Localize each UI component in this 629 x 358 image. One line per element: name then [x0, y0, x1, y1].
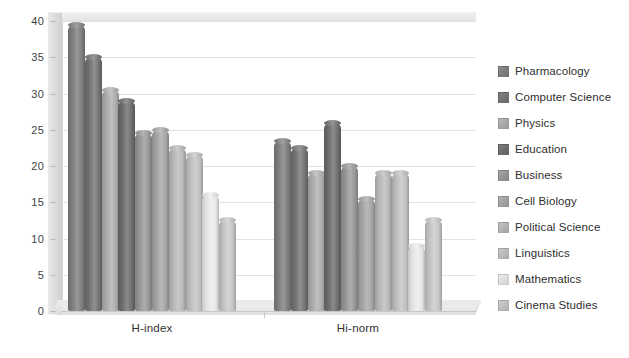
legend-swatch-icon [498, 300, 509, 311]
legend-label: Pharmacology [515, 65, 590, 77]
bar-physics-hi-norm [308, 173, 325, 311]
y-axis-tick [50, 166, 56, 167]
bar-political-science-h-index [169, 148, 186, 311]
legend-label: Physics [515, 117, 555, 129]
legend-label: Education [515, 143, 567, 155]
bar-cell-biology-h-index [152, 130, 169, 311]
legend-label: Mathematics [515, 273, 581, 285]
legend-swatch-icon [498, 170, 509, 181]
bar-education-h-index [118, 101, 135, 311]
legend-label: Political Science [515, 221, 600, 233]
bar-mathematics-h-index [202, 195, 219, 311]
y-axis-tick-label: 20 [16, 160, 44, 172]
y-axis-tick [50, 21, 56, 22]
bar-cap [375, 170, 392, 176]
bar-linguistics-h-index [186, 155, 203, 311]
bar-cap [425, 217, 442, 223]
y-axis-tick-label: 25 [16, 124, 44, 136]
y-axis-tick [50, 202, 56, 203]
bar-cell-biology-hi-norm [358, 199, 375, 311]
legend-item-pharmacology[interactable]: Pharmacology [498, 58, 626, 84]
y-axis-tick [50, 275, 56, 276]
bar-business-hi-norm [341, 166, 358, 311]
plot-area: H-indexHi-norm [0, 0, 490, 358]
bar-cap [291, 145, 308, 151]
legend-label: Business [515, 169, 562, 181]
legend-item-cinema-studies[interactable]: Cinema Studies [498, 292, 626, 318]
legend-item-mathematics[interactable]: Mathematics [498, 266, 626, 292]
gridline [62, 311, 476, 312]
bar-cinema-studies-h-index [219, 220, 236, 311]
bar-cap [324, 120, 341, 126]
legend-item-linguistics[interactable]: Linguistics [498, 240, 626, 266]
legend-item-business[interactable]: Business [498, 162, 626, 188]
y-axis-labels: 0510152025303540 [8, 0, 44, 358]
y-axis-tick-label: 40 [16, 15, 44, 27]
bar-cap [102, 87, 119, 93]
bar-computer-science-h-index [85, 57, 102, 311]
legend-swatch-icon [498, 118, 509, 129]
legend-swatch-icon [498, 144, 509, 155]
bar-cap [152, 127, 169, 133]
bar-cap [274, 138, 291, 144]
bar-chart: H-indexHi-norm 0510152025303540 Pharmaco… [0, 0, 629, 358]
y-axis-tick-label: 15 [16, 196, 44, 208]
x-axis-label-hi-norm: Hi-norm [298, 322, 418, 334]
y-axis-tick-label: 10 [16, 233, 44, 245]
legend-item-physics[interactable]: Physics [498, 110, 626, 136]
bar-cap [85, 54, 102, 60]
bar-cap [118, 98, 135, 104]
bar-mathematics-hi-norm [408, 246, 425, 311]
legend-item-education[interactable]: Education [498, 136, 626, 162]
bar-cap [308, 170, 325, 176]
bar-cap [219, 217, 236, 223]
bar-cinema-studies-hi-norm [425, 220, 442, 311]
y-axis-tick [50, 57, 56, 58]
legend-item-cell-biology[interactable]: Cell Biology [498, 188, 626, 214]
bar-cap [408, 243, 425, 249]
bar-linguistics-hi-norm [392, 173, 409, 311]
bar-computer-science-hi-norm [291, 148, 308, 311]
chart-back-wall-top [58, 12, 476, 21]
legend-swatch-icon [498, 222, 509, 233]
y-axis-tick-label: 35 [16, 51, 44, 63]
bar-cap [392, 170, 409, 176]
x-axis-tick [264, 311, 265, 318]
bar-education-hi-norm [324, 123, 341, 312]
legend-swatch-icon [498, 66, 509, 77]
bar-cap [341, 163, 358, 169]
bar-cap [135, 130, 152, 136]
bar-pharmacology-hi-norm [274, 141, 291, 311]
bar-pharmacology-h-index [68, 25, 85, 311]
legend-swatch-icon [498, 248, 509, 259]
legend-item-computer-science[interactable]: Computer Science [498, 84, 626, 110]
bar-cap [169, 145, 186, 151]
y-axis-tick [50, 239, 56, 240]
y-axis-tick-label: 0 [16, 305, 44, 317]
y-axis-tick-label: 30 [16, 88, 44, 100]
bar-political-science-hi-norm [375, 173, 392, 311]
legend-swatch-icon [498, 92, 509, 103]
y-axis-tick [50, 94, 56, 95]
y-axis-tick [50, 311, 56, 312]
legend-swatch-icon [498, 274, 509, 285]
bar-business-h-index [135, 133, 152, 311]
legend-swatch-icon [498, 196, 509, 207]
bar-physics-h-index [102, 90, 119, 311]
bar-cap [358, 196, 375, 202]
bar-cap [68, 22, 85, 28]
bar-cap [202, 192, 219, 198]
x-axis-label-h-index: H-index [92, 322, 212, 334]
bar-cap [186, 152, 203, 158]
y-axis-tick-label: 5 [16, 269, 44, 281]
legend-label: Cinema Studies [515, 299, 598, 311]
bars-layer [62, 21, 476, 311]
legend-label: Linguistics [515, 247, 570, 259]
y-axis-tick [50, 130, 56, 131]
legend-item-political-science[interactable]: Political Science [498, 214, 626, 240]
legend-label: Computer Science [515, 91, 611, 103]
chart-legend: PharmacologyComputer SciencePhysicsEduca… [498, 58, 626, 318]
legend-label: Cell Biology [515, 195, 577, 207]
